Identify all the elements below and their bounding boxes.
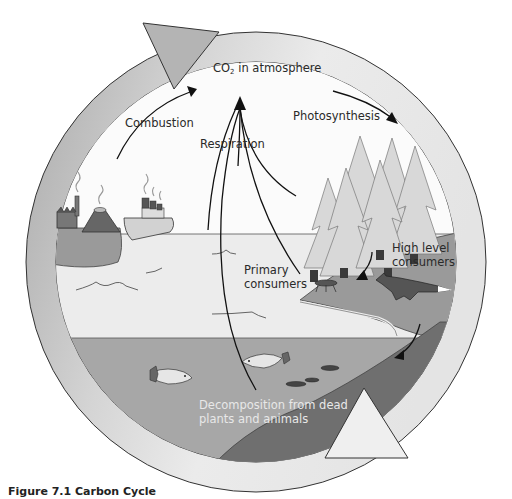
label-high-level-consumers: High levelconsumers bbox=[392, 241, 455, 269]
label-combustion: Combustion bbox=[125, 116, 194, 130]
label-co2-atmosphere: CO2 in atmosphere bbox=[213, 61, 321, 79]
label-respiration: Respiration bbox=[200, 137, 265, 151]
label-primary-consumers: Primaryconsumers bbox=[244, 263, 307, 291]
label-photosynthesis: Photosynthesis bbox=[293, 109, 380, 123]
label-decomposition: Decomposition from deadplants and animal… bbox=[199, 398, 348, 426]
figure-caption: Figure 7.1 Carbon Cycle bbox=[8, 485, 156, 498]
